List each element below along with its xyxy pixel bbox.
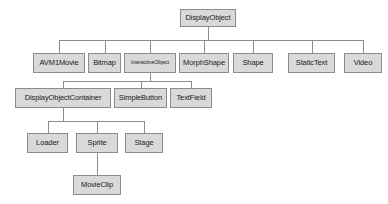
class-node-label: TextField: [176, 94, 205, 102]
class-node-stage[interactable]: Stage: [125, 133, 163, 153]
edge-riser-shape: [253, 40, 254, 53]
class-node-label: Bitmap: [93, 59, 116, 67]
class-node-label: MovieClip: [81, 181, 113, 189]
class-node-label: InteractiveObject: [131, 60, 169, 65]
class-node-movieclip[interactable]: MovieClip: [73, 175, 121, 195]
class-node-label: DisplayObject: [186, 14, 231, 22]
edge-riser-simplebutton: [141, 81, 142, 88]
class-node-displayobjectcontainer[interactable]: DisplayObjectContainer: [15, 88, 111, 108]
class-node-label: AVM1Movie: [40, 59, 79, 67]
class-node-displayobject[interactable]: DisplayObject: [180, 9, 236, 27]
edge-riser-avm1movie: [59, 40, 60, 53]
class-node-shape[interactable]: Shape: [233, 53, 273, 73]
class-hierarchy-diagram: DisplayObjectAVM1MovieBitmapInteractiveO…: [0, 0, 388, 204]
edge-riser-video: [363, 40, 364, 53]
class-node-morphshape[interactable]: MorphShape: [179, 53, 229, 73]
edge-drop-displayobject: [208, 27, 209, 40]
class-node-label: StaticText: [296, 59, 328, 67]
class-node-loader[interactable]: Loader: [27, 133, 68, 153]
class-node-label: Stage: [134, 139, 153, 147]
class-node-simplebutton[interactable]: SimpleButton: [114, 88, 167, 108]
class-node-video[interactable]: Video: [344, 53, 382, 73]
class-node-label: Sprite: [88, 139, 107, 147]
class-node-label: Shape: [242, 59, 263, 67]
class-node-label: Loader: [36, 139, 59, 147]
edge-drop-interactiveobject: [150, 73, 151, 81]
class-node-avm1movie[interactable]: AVM1Movie: [33, 53, 85, 73]
edge-riser-bitmap: [105, 40, 106, 53]
edge-drop-displayobjectcontainer: [63, 108, 64, 121]
edge-riser-textfield: [191, 81, 192, 88]
class-node-statictext[interactable]: StaticText: [288, 53, 335, 73]
edge-riser-sprite: [97, 121, 98, 133]
edge-sprite-to-movieclip: [97, 153, 98, 175]
edge-bus-interactiveobject: [63, 81, 192, 82]
edge-riser-statictext: [312, 40, 313, 53]
class-node-textfield[interactable]: TextField: [170, 88, 212, 108]
edge-riser-morphshape: [204, 40, 205, 53]
edge-riser-displayobjectcontainer: [63, 81, 64, 88]
class-node-interactiveobject[interactable]: InteractiveObject: [124, 53, 176, 73]
class-node-bitmap[interactable]: Bitmap: [88, 53, 121, 73]
edge-riser-loader: [48, 121, 49, 133]
class-node-label: DisplayObjectContainer: [25, 94, 102, 102]
class-node-sprite[interactable]: Sprite: [76, 133, 118, 153]
edge-riser-stage: [144, 121, 145, 133]
class-node-label: SimpleButton: [119, 94, 162, 102]
class-node-label: Video: [354, 59, 373, 67]
edge-riser-interactiveobject: [150, 40, 151, 53]
class-node-label: MorphShape: [183, 59, 225, 67]
